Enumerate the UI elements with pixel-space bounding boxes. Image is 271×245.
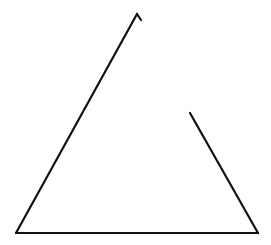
top-hook-line	[137, 14, 141, 20]
right-edge-line	[190, 113, 258, 233]
left-edge-line	[16, 14, 137, 233]
open-triangle-drawing	[0, 0, 271, 245]
